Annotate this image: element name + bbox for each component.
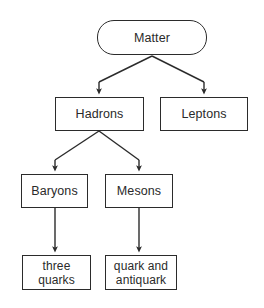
node-matter: Matter (97, 20, 207, 55)
node-quark-antiquark-label: quark and antiquark (114, 259, 168, 287)
node-hadrons: Hadrons (55, 97, 144, 131)
node-three-quarks: three quarks (22, 255, 91, 290)
node-mesons-label: Mesons (117, 184, 161, 198)
node-three-quarks-label: three quarks (38, 259, 75, 287)
edge-hadrons-to-baryons (55, 131, 99, 168)
node-baryons: Baryons (21, 174, 88, 208)
node-leptons: Leptons (160, 97, 248, 131)
node-matter-label: Matter (134, 31, 170, 45)
node-hadrons-label: Hadrons (76, 107, 124, 121)
node-leptons-label: Leptons (181, 107, 226, 121)
node-quark-antiquark: quark and antiquark (105, 255, 177, 290)
edge-matter-to-hadrons (99, 56, 152, 91)
node-mesons: Mesons (105, 174, 173, 208)
node-baryons-label: Baryons (31, 184, 78, 198)
matter-hierarchy-diagram: Matter Hadrons Leptons Baryons Mesons th… (0, 0, 264, 308)
edge-matter-to-leptons (152, 56, 204, 91)
edge-hadrons-to-mesons (99, 131, 139, 168)
